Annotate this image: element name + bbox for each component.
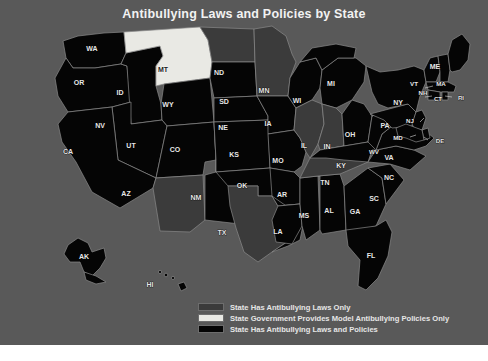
legend-label-model-policies-only: State Government Provides Model Antibull… (230, 314, 449, 323)
label-CA: CA (63, 148, 73, 155)
label-OH: OH (345, 131, 356, 138)
label-WI: WI (293, 97, 302, 104)
label-MN: MN (259, 87, 270, 94)
label-NC: NC (384, 174, 394, 181)
label-UT: UT (126, 142, 136, 149)
legend-label-laws-and-policies: State Has Antibullying Laws and Policies (230, 325, 378, 334)
label-NJ: NJ (406, 117, 414, 124)
label-AK: AK (79, 253, 89, 260)
us-choropleth-map: WA OR ID MT WY ND SD MN WI MI NV UT CA C… (0, 0, 488, 345)
label-MD: MD (393, 134, 403, 141)
label-WV: WV (369, 148, 380, 155)
label-IN: IN (324, 143, 331, 150)
label-WY: WY (162, 101, 174, 108)
state-HI[interactable] (158, 270, 187, 291)
label-KY: KY (336, 162, 346, 169)
label-HI: HI (147, 281, 154, 288)
label-TN: TN (320, 179, 329, 186)
label-FL: FL (367, 252, 376, 259)
label-MA: MA (436, 80, 446, 87)
state-SD[interactable] (210, 62, 257, 98)
label-NY: NY (393, 99, 403, 106)
label-NV: NV (95, 122, 105, 129)
legend-swatch-model-policies-only (198, 314, 224, 322)
label-NM: NM (191, 194, 202, 201)
label-VA: VA (384, 154, 393, 161)
legend-label-laws-only: State Has Antibullying Laws Only (230, 303, 350, 312)
legend-swatch-laws-only (198, 303, 224, 311)
label-CO: CO (170, 146, 181, 153)
label-WA: WA (86, 45, 97, 52)
state-AZ[interactable] (153, 175, 205, 232)
label-MO: MO (272, 157, 284, 164)
label-AL: AL (324, 207, 334, 214)
label-ME: ME (430, 63, 441, 70)
label-MS: MS (299, 212, 310, 219)
label-SD: SD (219, 98, 229, 105)
label-MT: MT (158, 66, 169, 73)
label-DE: DE (436, 137, 445, 144)
label-RI: RI (458, 94, 464, 101)
state-MS[interactable] (300, 176, 320, 240)
label-NE: NE (218, 124, 228, 131)
label-KS: KS (229, 151, 239, 158)
label-OK: OK (237, 182, 248, 189)
label-AZ: AZ (121, 190, 131, 197)
legend-item-model-policies-only[interactable]: State Government Provides Model Antibull… (198, 313, 478, 323)
label-GA: GA (350, 208, 361, 215)
label-NH: NH (419, 89, 428, 96)
state-ME[interactable] (448, 34, 470, 72)
label-IA: IA (265, 120, 272, 127)
label-TX: TX (218, 229, 227, 236)
label-OR: OR (74, 79, 85, 86)
label-MI: MI (327, 80, 335, 87)
label-PA: PA (380, 122, 389, 129)
label-AR: AR (277, 191, 287, 198)
label-SC: SC (369, 195, 379, 202)
infographic-root: Antibullying Laws and Policies by State (0, 0, 488, 361)
label-ND: ND (214, 69, 224, 76)
legend-swatch-laws-and-policies (198, 325, 224, 333)
label-CT: CT (434, 95, 442, 102)
map-legend: State Has Antibullying Laws Only State G… (198, 302, 478, 335)
label-LA: LA (273, 228, 282, 235)
state-AK-tail (84, 272, 106, 284)
legend-item-laws-only[interactable]: State Has Antibullying Laws Only (198, 302, 478, 312)
legend-item-laws-and-policies[interactable]: State Has Antibullying Laws and Policies (198, 324, 478, 334)
state-OH[interactable] (342, 100, 372, 148)
map-panel: Antibullying Laws and Policies by State (0, 0, 488, 345)
label-VT: VT (410, 80, 418, 87)
label-IL: IL (301, 142, 308, 149)
label-ID: ID (117, 89, 124, 96)
